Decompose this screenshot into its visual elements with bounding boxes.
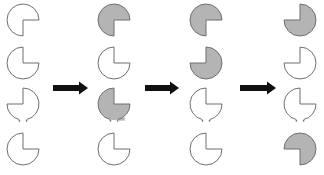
gap-end-dot (110, 120, 112, 122)
gap-end-dot (26, 120, 28, 122)
pie-shape-col2-row1 (98, 4, 130, 36)
pie-shape-col4-row3 (284, 88, 316, 122)
pie-shape-col3-row3 (190, 88, 222, 122)
gap-end-dot (209, 120, 211, 122)
shape-sequence-diagram (0, 0, 324, 175)
pie-shape-col3-row1 (190, 4, 222, 36)
right-arrow-icon (240, 82, 276, 95)
pie-shape-col4-row4 (284, 133, 316, 165)
pie-shape-col2-row4 (98, 133, 130, 165)
pie-shape-col3-row4 (190, 133, 222, 165)
pie-shape-col3-row2 (190, 47, 222, 79)
pie-shape-col4-row2 (284, 47, 316, 79)
right-arrow-icon (53, 82, 88, 95)
right-arrow-icon (145, 82, 179, 95)
pie-shape-col1-row1 (7, 4, 39, 36)
pie-shape-col4-row1 (284, 4, 316, 36)
diagram-canvas (0, 0, 324, 175)
pie-shape-col1-row3 (7, 88, 39, 122)
pie-shape-col2-row3 (98, 88, 130, 122)
pie-shape-col2-row2 (98, 47, 130, 79)
gap-end-dot (202, 120, 204, 122)
gap-end-dot (19, 120, 21, 122)
gap-end-dot (303, 120, 305, 122)
pie-shape-col1-row4 (7, 133, 39, 165)
pie-shape-col1-row2 (7, 47, 39, 79)
gap-end-dot (296, 120, 298, 122)
